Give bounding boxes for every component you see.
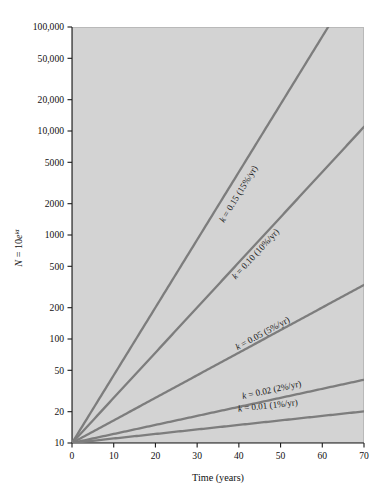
plot-area-background [72, 27, 364, 443]
y-tick-label: 50,000 [38, 53, 65, 64]
exponential-growth-chart: 10205010020050010002000500010,00020,0005… [0, 0, 382, 499]
x-tick-label: 40 [234, 450, 244, 461]
x-tick-label: 10 [109, 450, 119, 461]
x-tick-label: 30 [192, 450, 202, 461]
y-tick-label: 10,000 [38, 125, 65, 136]
y-axis-title-exponent: kt [13, 228, 21, 234]
x-axis-ticks: 010203040506070 [70, 443, 369, 461]
y-tick-label: 1000 [45, 229, 64, 240]
x-axis-title: Time (years) [192, 472, 244, 484]
y-tick-label: 50 [54, 365, 64, 376]
y-tick-label: 5000 [45, 157, 64, 168]
y-tick-label: 100 [50, 333, 65, 344]
y-axis-title-equals: = 10 [13, 239, 24, 260]
y-tick-label: 20 [54, 406, 64, 417]
figure-container: 10205010020050010002000500010,00020,0005… [0, 0, 382, 499]
y-tick-label: 500 [50, 261, 65, 272]
y-axis-ticks: 10205010020050010002000500010,00020,0005… [33, 21, 72, 448]
svg-text:N = 10ekt: N = 10ekt [13, 228, 24, 267]
y-axis-title: N = 10ekt [13, 228, 24, 267]
x-tick-label: 70 [359, 450, 369, 461]
x-tick-label: 20 [151, 450, 161, 461]
x-tick-label: 0 [70, 450, 75, 461]
y-tick-label: 100,000 [33, 21, 64, 32]
y-tick-label: 200 [50, 302, 65, 313]
y-tick-label: 2000 [45, 198, 64, 209]
y-tick-label: 20,000 [38, 94, 65, 105]
x-tick-label: 50 [276, 450, 286, 461]
y-tick-label: 10 [54, 437, 64, 448]
x-tick-label: 60 [317, 450, 327, 461]
